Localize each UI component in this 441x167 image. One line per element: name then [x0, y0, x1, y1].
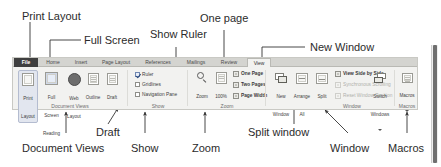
reset-window-position-icon	[335, 93, 341, 99]
switch-windows-chevron-down-icon[interactable]	[378, 129, 382, 131]
button-new-window-label: New Window	[273, 94, 289, 117]
button-web-layout[interactable]: Web Layout	[65, 70, 83, 122]
word-ribbon: File Home Insert Page Layout References …	[12, 57, 418, 110]
synchronous-scrolling-icon	[335, 82, 341, 88]
one-page-icon	[233, 71, 239, 77]
button-print-layout[interactable]: Print Layout	[18, 70, 38, 123]
group-label-document-views: Document Views	[15, 103, 125, 110]
group-label-show: Show	[131, 103, 185, 110]
arrange-all-icon	[296, 73, 308, 84]
ribbon-tab-strip: File Home Insert Page Layout References …	[13, 58, 417, 67]
tab-mailings[interactable]: Mailings	[181, 58, 211, 67]
checkbox-label-gridlines: Gridlines	[142, 82, 161, 88]
group-macros: Macros Macros	[397, 68, 417, 110]
group-label-macros: Macros	[397, 103, 417, 110]
group-zoom: Zoom 100% One Page Two Pages P	[191, 68, 263, 110]
callout-draft: Draft	[96, 126, 120, 138]
group-separator	[127, 70, 128, 106]
button-full-screen-reading-label: Full Screen Reading	[43, 95, 60, 136]
callout-window: Window	[330, 142, 369, 154]
group-show: Ruler Gridlines Navigation Pane Show	[131, 68, 185, 110]
gridlines-checkbox-icon[interactable]	[135, 82, 140, 87]
button-macros-label: Macros	[399, 93, 414, 98]
button-split[interactable]: Split	[313, 70, 331, 102]
callout-split-window: Split window	[248, 126, 309, 138]
callout-full-screen: Full Screen	[84, 34, 140, 46]
command-page-width[interactable]: Page Width	[233, 92, 267, 100]
checkbox-row-navigation-pane[interactable]: Navigation Pane	[135, 91, 177, 98]
tab-file[interactable]: File	[14, 58, 38, 67]
new-window-icon	[275, 73, 288, 84]
group-separator	[394, 70, 395, 106]
checkbox-label-navigation-pane: Navigation Pane	[142, 92, 177, 98]
button-split-label: Split	[318, 94, 327, 99]
group-separator	[187, 70, 188, 106]
button-new-window[interactable]: New Window	[271, 70, 291, 120]
zoom-100-icon	[216, 72, 227, 84]
callout-new-window: New Window	[310, 41, 374, 53]
button-outline-label: Outline	[86, 95, 101, 100]
page-width-icon	[233, 93, 239, 99]
macros-icon	[402, 73, 413, 83]
navigation-pane-checkbox-icon[interactable]	[135, 92, 140, 97]
outline-icon	[88, 73, 99, 85]
group-window: New Window Arrange All Split View Side b…	[269, 68, 392, 110]
callout-show: Show	[131, 142, 159, 154]
callout-macros: Macros	[388, 142, 424, 154]
full-screen-reading-icon	[45, 72, 58, 85]
button-arrange-all[interactable]: Arrange All	[292, 70, 312, 120]
ruler-checkbox-icon[interactable]	[135, 72, 140, 77]
tab-home[interactable]: Home	[41, 58, 65, 67]
callout-document-views: Document Views	[22, 142, 104, 154]
tab-page-layout[interactable]: Page Layout	[97, 58, 135, 67]
callout-one-page: One page	[200, 12, 248, 24]
button-zoom-label: Zoom	[196, 94, 208, 99]
two-pages-icon	[233, 82, 239, 88]
group-label-window: Window	[327, 103, 377, 110]
button-zoom-100[interactable]: 100%	[212, 70, 230, 102]
web-layout-icon	[68, 73, 81, 86]
group-label-zoom: Zoom	[191, 103, 263, 110]
tab-references[interactable]: References	[139, 58, 177, 67]
draft-icon	[107, 73, 118, 85]
button-arrange-all-label: Arrange All	[294, 94, 310, 117]
command-label-page-width: Page Width	[241, 93, 267, 99]
group-separator	[265, 70, 266, 106]
callout-zoom: Zoom	[192, 142, 220, 154]
button-draft-label: Draft	[107, 95, 117, 100]
command-label-two-pages: Two Pages	[241, 82, 266, 88]
scrollbar-thumb[interactable]	[433, 45, 437, 163]
command-one-page[interactable]: One Page	[233, 70, 263, 78]
switch-windows-icon	[374, 73, 387, 84]
magnifier-icon	[196, 72, 208, 84]
callout-print-layout: Print Layout	[22, 10, 81, 22]
button-outline[interactable]: Outline	[84, 70, 102, 103]
view-side-by-side-icon	[335, 71, 341, 77]
tab-insert[interactable]: Insert	[69, 58, 93, 67]
checkbox-row-gridlines[interactable]: Gridlines	[135, 81, 161, 88]
button-zoom[interactable]: Zoom	[193, 70, 211, 102]
print-layout-icon	[22, 73, 34, 86]
button-macros[interactable]: Macros	[397, 70, 417, 119]
command-two-pages[interactable]: Two Pages	[233, 81, 266, 89]
figure-canvas: Print Layout Full Screen Show Ruler One …	[0, 0, 441, 167]
vertical-scrollbar[interactable]	[431, 45, 438, 163]
checkbox-row-ruler[interactable]: Ruler	[135, 71, 153, 78]
command-label-one-page: One Page	[241, 71, 263, 77]
macros-chevron-down-icon[interactable]	[405, 110, 409, 112]
tab-view[interactable]: View	[247, 58, 271, 67]
tab-review[interactable]: Review	[215, 58, 243, 67]
button-zoom-100-label: 100%	[215, 94, 227, 99]
checkbox-label-ruler: Ruler	[142, 72, 153, 78]
button-draft[interactable]: Draft	[103, 70, 121, 103]
callout-show-ruler: Show Ruler	[150, 28, 207, 40]
split-icon	[316, 73, 328, 84]
group-document-views: Print Layout Full Screen Reading Web Lay…	[15, 68, 125, 110]
